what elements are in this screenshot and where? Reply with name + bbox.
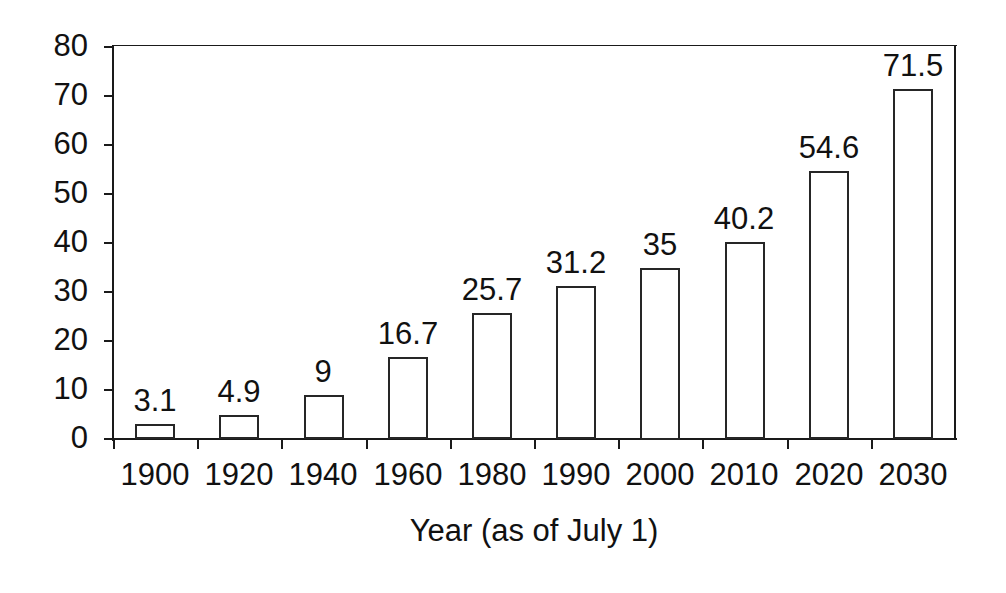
x-axis-tick-label: 2020 xyxy=(787,458,871,492)
bar-chart: 01020304050607080 3.14.9916.725.731.2354… xyxy=(0,0,1006,593)
y-axis-tick xyxy=(104,144,112,146)
bar xyxy=(304,395,344,439)
y-axis-tick-label: 50 xyxy=(12,177,88,208)
x-axis-tick-label: 1960 xyxy=(366,458,450,492)
y-axis-labels: 01020304050607080 xyxy=(12,0,88,593)
bar xyxy=(135,424,175,439)
bar-value-label: 16.7 xyxy=(366,317,450,351)
x-axis-tick xyxy=(618,440,620,449)
x-axis-tick-label: 2030 xyxy=(871,458,955,492)
y-axis-tick xyxy=(104,340,112,342)
bar-value-label: 71.5 xyxy=(871,49,955,83)
x-axis-tick xyxy=(787,440,789,449)
plot-border-right xyxy=(954,46,956,440)
bar-value-label: 54.6 xyxy=(787,131,871,165)
y-axis-tick xyxy=(104,242,112,244)
x-axis-tick-label: 1980 xyxy=(450,458,534,492)
x-axis-tick-label: 2010 xyxy=(702,458,786,492)
bar-value-label: 35 xyxy=(618,228,702,262)
x-axis-tick xyxy=(197,440,199,449)
bar xyxy=(388,357,428,439)
x-axis-tick xyxy=(281,440,283,449)
y-axis-tick-label: 70 xyxy=(12,79,88,110)
x-axis-tick xyxy=(366,440,368,449)
y-axis-tick-label: 80 xyxy=(12,30,88,61)
plot-border-top xyxy=(112,45,957,46)
x-axis-tick-label: 1990 xyxy=(534,458,618,492)
y-axis-tick xyxy=(104,193,112,195)
y-axis-tick xyxy=(104,46,112,48)
y-axis-tick-label: 0 xyxy=(12,422,88,453)
y-axis-tick-label: 10 xyxy=(12,373,88,404)
bar-value-label: 40.2 xyxy=(702,202,786,236)
bar xyxy=(556,286,596,439)
bar xyxy=(893,89,933,439)
x-axis-tick-label: 1940 xyxy=(281,458,365,492)
y-axis-tick-label: 20 xyxy=(12,324,88,355)
y-axis-tick xyxy=(104,438,112,440)
y-axis-tick-label: 30 xyxy=(12,275,88,306)
bar xyxy=(725,242,765,439)
y-axis-tick xyxy=(104,389,112,391)
bar xyxy=(472,313,512,439)
bar xyxy=(809,171,849,439)
x-axis-tick xyxy=(450,440,452,449)
bar-value-label: 25.7 xyxy=(450,273,534,307)
x-axis-tick xyxy=(534,440,536,449)
x-axis-title: Year (as of July 1) xyxy=(113,513,955,549)
bar xyxy=(219,415,259,439)
bar-value-label: 9 xyxy=(281,355,365,389)
x-axis-tick xyxy=(702,440,704,449)
x-axis-tick-label: 1920 xyxy=(197,458,281,492)
y-axis-line xyxy=(112,46,114,441)
y-axis-tick-label: 40 xyxy=(12,226,88,257)
y-axis-tick xyxy=(104,291,112,293)
x-axis-tick xyxy=(871,440,873,449)
y-axis-tick-label: 60 xyxy=(12,128,88,159)
bar xyxy=(640,268,680,440)
x-axis-tick-label: 1900 xyxy=(113,458,197,492)
y-axis-tick xyxy=(104,95,112,97)
x-axis-origin-tick xyxy=(113,440,115,449)
bar-value-label: 3.1 xyxy=(113,384,197,418)
bar-value-label: 4.9 xyxy=(197,375,281,409)
bar-value-label: 31.2 xyxy=(534,246,618,280)
x-axis-tick-label: 2000 xyxy=(618,458,702,492)
